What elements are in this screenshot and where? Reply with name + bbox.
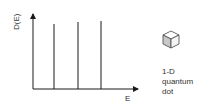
caption-line-2: quantum bbox=[162, 77, 193, 87]
x-axis-label: E bbox=[125, 94, 130, 103]
y-axis-label: D(E) bbox=[12, 14, 21, 30]
quantum-dot-caption: 1-D quantum dot bbox=[162, 67, 193, 97]
caption-line-3: dot bbox=[162, 87, 193, 97]
delta-peaks bbox=[54, 21, 101, 89]
cube-icon bbox=[163, 31, 179, 48]
caption-line-1: 1-D bbox=[162, 67, 193, 77]
